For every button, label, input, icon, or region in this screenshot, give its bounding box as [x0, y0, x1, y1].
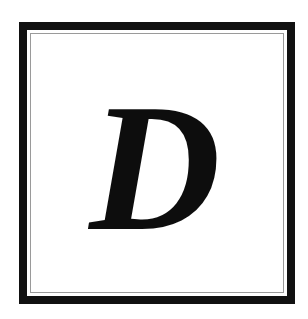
outer-frame-border: D: [19, 22, 295, 304]
inner-frame-border: D: [30, 33, 284, 293]
drop-cap-letter: D: [31, 34, 283, 292]
